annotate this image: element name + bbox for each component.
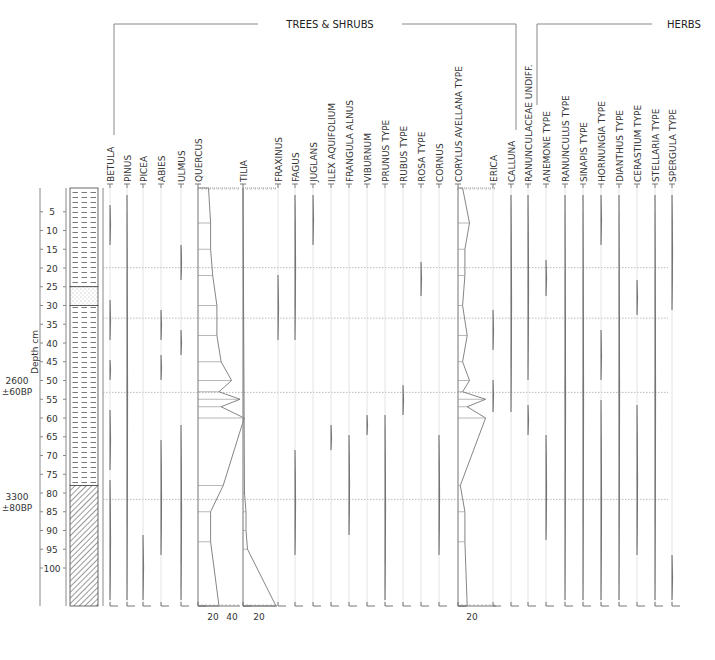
radiocarbon-date: 2600 bbox=[6, 376, 29, 386]
depth-tick-label: 65 bbox=[46, 432, 57, 442]
taxon-label: RUBUS TYPE bbox=[399, 125, 409, 182]
lithology-peat-hatched bbox=[70, 486, 98, 607]
lithology-column bbox=[70, 188, 103, 606]
taxon-picea: PICEA bbox=[139, 155, 151, 606]
taxon-label: ABIES bbox=[157, 155, 167, 182]
taxon-fagus: FAGUS bbox=[291, 152, 303, 606]
taxon-label: ANEMONE TYPE bbox=[542, 111, 552, 182]
depth-tick-label: 20 bbox=[46, 264, 58, 274]
taxon-anemone-type: ANEMONE TYPE bbox=[542, 111, 554, 606]
taxon-abies: ABIES bbox=[157, 155, 169, 606]
trees-shrubs-group-label: TREES & SHRUBS bbox=[285, 19, 373, 30]
depth-tick-label: 55 bbox=[46, 395, 57, 405]
depth-tick-label: 75 bbox=[46, 470, 57, 480]
depth-tick-label: 50 bbox=[46, 376, 58, 386]
taxon-ilex-aquifolium: ILEX AQUIFOLIUM bbox=[327, 103, 339, 606]
taxon-stellaria-type: STELLARIA TYPE bbox=[651, 108, 663, 606]
taxon-label: CORYLUS AVELLANA TYPE bbox=[454, 66, 464, 182]
taxon-prunus-type: PRUNUS TYPE bbox=[381, 119, 393, 606]
taxon-label: PRUNUS TYPE bbox=[381, 119, 391, 182]
depth-tick-label: 95 bbox=[46, 545, 57, 555]
taxon-tilia: TILIA bbox=[239, 159, 277, 606]
taxon-label: CALLUNA bbox=[507, 140, 517, 182]
quercus-scale-40: 40 bbox=[226, 612, 238, 622]
taxon-ulmus: ULMUS bbox=[177, 150, 189, 606]
taxon-juglans: JUGLANS bbox=[309, 142, 321, 606]
taxon-label: HORNUNGIA TYPE bbox=[597, 101, 607, 182]
radiocarbon-date-error: ±60BP bbox=[2, 387, 33, 397]
radiocarbon-date-error: ±80BP bbox=[2, 503, 33, 513]
taxon-pinus: PINUS bbox=[123, 155, 135, 606]
taxon-ranunculus-type: RANUNCULUS TYPE bbox=[561, 95, 573, 606]
depth-tick-label: 5 bbox=[49, 207, 55, 217]
taxon-cornus: CORNUS bbox=[435, 143, 447, 606]
group-headers: TREES & SHRUBS HERBS bbox=[114, 19, 701, 135]
taxon-label: ILEX AQUIFOLIUM bbox=[327, 103, 337, 182]
depth-tick-label: 15 bbox=[46, 245, 57, 255]
taxon-label: JUGLANS bbox=[309, 142, 319, 183]
depth-tick-label: 60 bbox=[46, 414, 58, 424]
taxon-label: RANUNCULACEAE UNDIFF. bbox=[524, 64, 534, 182]
taxon-label: FRANGULA ALNUS bbox=[345, 100, 355, 182]
taxon-ranunculaceae-undiff-: RANUNCULACEAE UNDIFF. bbox=[524, 64, 536, 606]
depth-axis-label: Depth cm bbox=[30, 330, 40, 374]
taxon-label: FRAXINUS bbox=[274, 137, 284, 182]
depth-axis: 5101520253035404550556065707580859095100… bbox=[2, 188, 66, 606]
taxon-label: VIBURNUM bbox=[363, 133, 373, 182]
herbs-group-label: HERBS bbox=[667, 19, 701, 30]
depth-tick-label: 35 bbox=[46, 320, 57, 330]
lithology-clay bbox=[70, 306, 98, 486]
taxon-label: PICEA bbox=[139, 155, 149, 182]
taxon-label: SINAPIS TYPE bbox=[579, 122, 589, 182]
depth-tick-label: 90 bbox=[46, 526, 58, 536]
depth-tick-label: 80 bbox=[46, 489, 58, 499]
taxon-corylus-avellana-type: CORYLUS AVELLANA TYPE bbox=[454, 66, 496, 606]
taxon-label: PINUS bbox=[123, 155, 133, 182]
taxon-erica: ERICA bbox=[489, 154, 501, 606]
lithology-sand bbox=[70, 287, 98, 306]
pollen-diagram: TREES & SHRUBS HERBS 5101520253035404550… bbox=[0, 0, 715, 660]
depth-tick-label: 100 bbox=[43, 564, 60, 574]
taxon-calluna: CALLUNA bbox=[507, 140, 519, 606]
radiocarbon-date: 3300 bbox=[6, 492, 29, 502]
taxon-label: CORNUS bbox=[435, 143, 445, 182]
taxon-label: ULMUS bbox=[177, 150, 187, 182]
depth-tick-label: 45 bbox=[46, 357, 57, 367]
taxon-label: QUERCUS bbox=[194, 138, 204, 182]
taxon-quercus: QUERCUS bbox=[194, 138, 244, 606]
taxa-curves: BETULAPINUSPICEAABIESULMUSQUERCUSTILIAFR… bbox=[106, 64, 680, 622]
taxon-label: BETULA bbox=[106, 146, 116, 182]
lithology-clay bbox=[70, 188, 98, 287]
taxon-fraxinus: FRAXINUS bbox=[274, 137, 286, 606]
taxon-rosa-type: ROSA TYPE bbox=[417, 131, 429, 606]
taxon-frangula-alnus: FRANGULA ALNUS bbox=[345, 100, 357, 606]
taxon-viburnum: VIBURNUM bbox=[363, 133, 375, 606]
taxon-spergula-type: SPERGULA TYPE bbox=[668, 109, 680, 606]
taxon-label: STELLARIA TYPE bbox=[651, 108, 661, 182]
taxon-label: DIANTHUS TYPE bbox=[615, 110, 625, 182]
taxon-label: ROSA TYPE bbox=[417, 131, 427, 182]
taxon-dianthus-type: DIANTHUS TYPE bbox=[615, 110, 627, 606]
depth-tick-label: 40 bbox=[46, 339, 58, 349]
depth-tick-label: 10 bbox=[46, 226, 58, 236]
taxon-label: CERASTIUM TYPE bbox=[633, 104, 643, 182]
taxon-label: TILIA bbox=[239, 159, 249, 183]
taxon-hornungia-type: HORNUNGIA TYPE bbox=[597, 101, 609, 606]
corylus-scale-20: 20 bbox=[466, 612, 478, 622]
depth-tick-label: 30 bbox=[46, 301, 58, 311]
taxon-betula: BETULA bbox=[106, 146, 118, 606]
taxon-label: ERICA bbox=[489, 154, 499, 182]
tilia-scale-20: 20 bbox=[253, 612, 265, 622]
taxon-sinapis-type: SINAPIS TYPE bbox=[579, 122, 591, 606]
taxon-rubus-type: RUBUS TYPE bbox=[399, 125, 411, 606]
quercus-scale-20: 20 bbox=[207, 612, 219, 622]
taxon-label: SPERGULA TYPE bbox=[668, 109, 678, 182]
depth-tick-label: 70 bbox=[46, 451, 58, 461]
taxon-cerastium-type: CERASTIUM TYPE bbox=[633, 104, 645, 606]
depth-tick-label: 25 bbox=[46, 282, 57, 292]
depth-tick-label: 85 bbox=[46, 507, 57, 517]
taxon-label: FAGUS bbox=[291, 152, 301, 182]
taxon-label: RANUNCULUS TYPE bbox=[561, 95, 571, 182]
